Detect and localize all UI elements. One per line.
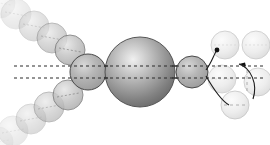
flank-sphere-right	[176, 56, 208, 88]
diagram-canvas	[0, 0, 270, 145]
flank-sphere-left	[70, 54, 106, 90]
central-core-sphere	[105, 37, 175, 107]
scattering-diagram-svg	[0, 0, 270, 145]
arrow-upper-scatter-head	[215, 48, 220, 53]
scatter-sphere-mid-right	[244, 68, 270, 96]
